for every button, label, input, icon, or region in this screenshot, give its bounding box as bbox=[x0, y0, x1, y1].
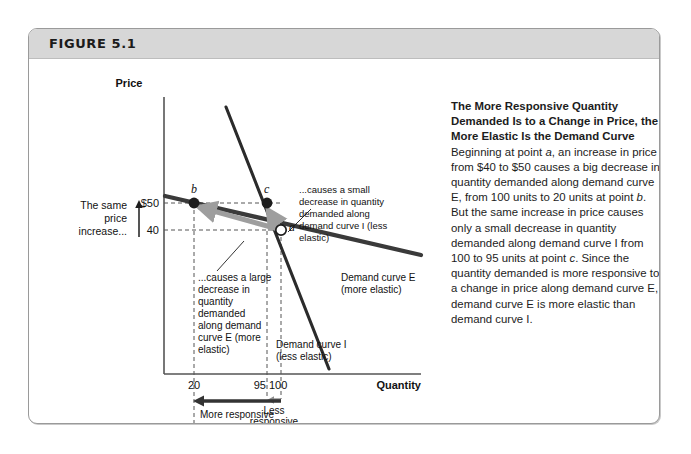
anno-small-l5: elastic) bbox=[299, 232, 329, 243]
price-increase-note-line3: increase... bbox=[79, 225, 127, 237]
demand-curve-e-label-line2: (more elastic) bbox=[341, 284, 402, 295]
anno-large-l6: curve E (more bbox=[198, 332, 261, 343]
demand-curve-i-label-line1: Demand curve I bbox=[276, 339, 347, 350]
figure-number-label: FIGURE 5.1 bbox=[49, 36, 136, 51]
anno-large-l1: ...causes a large bbox=[198, 272, 272, 283]
anno-large-l5: along demand bbox=[198, 320, 261, 331]
price-increase-note-line1: The same bbox=[80, 199, 127, 211]
x-tick-20: 20 bbox=[188, 379, 200, 391]
figure-caption: The More Responsive Quantity Demanded Is… bbox=[451, 99, 660, 327]
caption-body-1: Beginning at point bbox=[451, 146, 545, 158]
anno-large-l4: demanded bbox=[198, 308, 245, 319]
point-label-a: a bbox=[289, 220, 295, 234]
anno-large-l7: elastic) bbox=[198, 344, 230, 355]
y-tick-50: $50 bbox=[141, 197, 159, 209]
demand-curve-e-label-line1: Demand curve E bbox=[341, 272, 416, 283]
demand-curve-e-label: Demand curve E (more elastic) bbox=[341, 272, 416, 295]
anno-small-l1: ...causes a small bbox=[299, 184, 370, 195]
y-axis-title: Price bbox=[116, 77, 143, 89]
x-tick-95: 95 bbox=[254, 379, 266, 391]
data-point-b bbox=[189, 198, 200, 209]
price-increase-note-line2: price bbox=[104, 212, 127, 224]
anno-small-l2: decrease in quantity bbox=[299, 196, 384, 207]
demand-curve-i-label-line2: (less elastic) bbox=[276, 351, 332, 362]
anno-large-l2: decrease in bbox=[198, 284, 250, 295]
x-axis-title: Quantity bbox=[376, 379, 421, 391]
anno-small-l3: demanded along bbox=[299, 208, 370, 219]
figure-header-bar: FIGURE 5.1 bbox=[29, 29, 659, 59]
more-responsive-label: More responsive bbox=[200, 409, 274, 420]
figure-card: FIGURE 5.1 Price Quanti bbox=[28, 28, 660, 424]
caption-bold-lead: The More Responsive Quantity Demanded Is… bbox=[451, 100, 658, 142]
annotation-large-decrease: ...causes a large decrease in quantity d… bbox=[198, 272, 272, 355]
point-label-b: b bbox=[191, 182, 197, 196]
demand-curve-chart: Price Quantity $50 40 20 95 100 bbox=[29, 59, 429, 424]
data-point-c bbox=[262, 198, 273, 209]
data-point-a bbox=[276, 225, 286, 235]
x-tick-100: 100 bbox=[269, 379, 287, 391]
y-tick-40: 40 bbox=[147, 224, 159, 236]
demand-curve-i-label: Demand curve I (less elastic) bbox=[276, 339, 347, 362]
anno-large-l3: quantity bbox=[198, 296, 233, 307]
annotation-small-decrease: ...causes a small decrease in quantity d… bbox=[299, 184, 387, 243]
leader-line-large-decrease bbox=[217, 241, 244, 271]
point-label-c: c bbox=[264, 182, 270, 196]
anno-small-l4: demand curve I (less bbox=[299, 220, 387, 231]
chart-plot-area: Price Quantity $50 40 20 95 100 bbox=[29, 59, 429, 424]
